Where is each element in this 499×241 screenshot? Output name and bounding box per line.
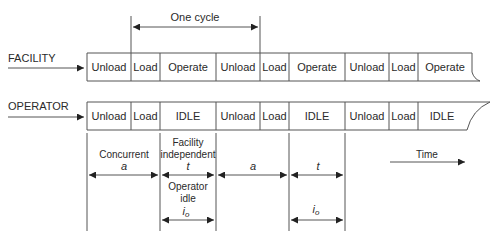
operator-segment: Unload: [92, 110, 127, 122]
dimension-lines: [87, 133, 345, 231]
facility-independent-dimension: Facility independent t: [160, 137, 215, 175]
operator-segment: Unload: [350, 110, 385, 122]
second-facility-independent-dimension: t: [291, 160, 343, 175]
operator-idle-label-1: Operator: [168, 181, 208, 192]
operator-segment: IDLE: [430, 110, 454, 122]
facility-segment: Operate: [168, 61, 208, 73]
second-concurrent-dimension: a: [218, 160, 287, 175]
facility-segment: Unload: [350, 61, 385, 73]
cycle-timing-diagram: One cycle FACILITY Unload Load Operate U…: [0, 0, 499, 241]
operator-segment: Load: [262, 110, 286, 122]
facility-segment: Load: [391, 61, 415, 73]
facility-segment: Load: [262, 61, 286, 73]
operator-segment: Load: [133, 110, 157, 122]
facility-independent-symbol: t: [186, 160, 190, 172]
facility-segment: Load: [133, 61, 157, 73]
facility-segment: Unload: [92, 61, 127, 73]
time-axis: Time: [390, 149, 465, 162]
second-operator-idle-dimension: io: [291, 203, 343, 220]
facility-label: FACILITY: [8, 52, 56, 64]
facility-row: FACILITY Unload Load Operate Unload Load…: [8, 52, 480, 81]
operator-idle-label-2: idle: [180, 193, 196, 204]
facility-independent-label-2: independent: [160, 149, 215, 160]
concurrent-dimension: Concurrent a: [89, 149, 158, 175]
time-label: Time: [416, 149, 438, 160]
facility-segment: Operate: [297, 61, 337, 73]
concurrent-label: Concurrent: [99, 149, 149, 160]
facility-independent-label-1: Facility: [172, 137, 203, 148]
concurrent-symbol: a: [121, 160, 127, 172]
operator-segment: IDLE: [305, 110, 329, 122]
facility-segment: Unload: [221, 61, 256, 73]
second-a-symbol: a: [250, 160, 256, 172]
operator-segment: IDLE: [176, 110, 200, 122]
operator-idle-dimension: Operator idle io: [162, 181, 214, 220]
one-cycle-dimension: One cycle: [131, 11, 260, 53]
operator-segment: Unload: [221, 110, 256, 122]
operator-row: OPERATOR Unload Load IDLE Unload Load ID…: [8, 100, 490, 130]
one-cycle-label: One cycle: [171, 11, 220, 23]
second-t-symbol: t: [316, 160, 320, 172]
operator-idle-symbol: io: [183, 205, 190, 219]
facility-segment: Operate: [425, 61, 465, 73]
operator-segment: Load: [391, 110, 415, 122]
operator-label: OPERATOR: [8, 100, 69, 112]
second-io-symbol: io: [313, 203, 320, 217]
